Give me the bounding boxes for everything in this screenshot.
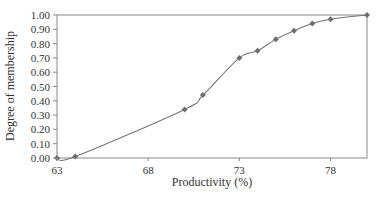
y-axis-title: Degree of membership — [3, 31, 17, 141]
y-tick-label: 0.60 — [31, 66, 51, 78]
data-point-marker — [72, 154, 78, 160]
data-point-marker — [291, 28, 297, 34]
y-axis: 0.000.100.200.300.400.500.600.700.800.90… — [31, 9, 57, 164]
y-tick-label: 0.20 — [31, 123, 51, 135]
data-point-marker — [273, 36, 279, 42]
x-tick-label: 78 — [325, 164, 337, 176]
data-point-marker — [328, 16, 334, 22]
x-tick-label: 68 — [143, 164, 155, 176]
data-point-marker — [255, 48, 261, 54]
y-tick-label: 0.40 — [31, 95, 51, 107]
series-line — [57, 15, 367, 161]
x-axis: 63687378 — [52, 158, 337, 176]
y-tick-label: 0.10 — [31, 138, 51, 150]
y-tick-label: 0.50 — [31, 81, 51, 93]
y-tick-label: 0.70 — [31, 52, 51, 64]
y-tick-label: 1.00 — [31, 9, 51, 21]
plot-area — [54, 12, 370, 161]
x-tick-label: 63 — [52, 164, 64, 176]
membership-chart: 0.000.100.200.300.400.500.600.700.800.90… — [0, 0, 383, 201]
y-tick-label: 0.00 — [31, 152, 51, 164]
y-tick-label: 0.80 — [31, 38, 51, 50]
y-tick-label: 0.90 — [31, 23, 51, 35]
data-point-marker — [182, 106, 188, 112]
y-tick-label: 0.30 — [31, 109, 51, 121]
x-axis-title: Productivity (%) — [172, 175, 252, 189]
data-point-marker — [309, 21, 315, 27]
data-point-marker — [364, 12, 370, 18]
